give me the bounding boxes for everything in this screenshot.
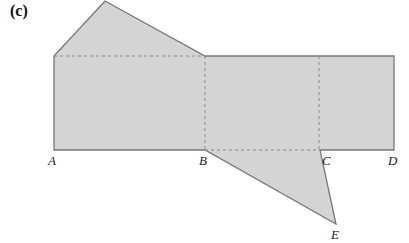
point-label-b: B <box>199 154 207 167</box>
net-diagram <box>0 0 409 243</box>
point-label-d: D <box>388 154 397 167</box>
point-label-e: E <box>331 228 339 241</box>
point-label-a: A <box>48 154 56 167</box>
net-shape <box>54 1 394 224</box>
point-label-c: C <box>322 154 331 167</box>
